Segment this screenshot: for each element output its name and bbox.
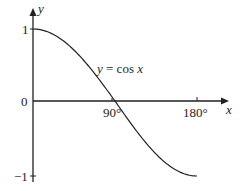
y-axis-label: y xyxy=(36,1,44,16)
y-tick-label-1: 1 xyxy=(22,22,29,37)
cosine-chart: y x 1 0 −1 90° 180° y = cos x xyxy=(0,0,242,191)
x-axis-label: x xyxy=(225,102,232,117)
y-tick-label-0: 0 xyxy=(21,94,28,109)
curve-label-var: x xyxy=(136,61,143,76)
curve-label: y = cos x xyxy=(95,61,143,76)
curve-label-eq: = cos xyxy=(103,61,137,76)
y-axis-arrow-icon xyxy=(30,8,37,16)
y-tick-label-minus-1: −1 xyxy=(14,169,28,184)
cosine-curve xyxy=(33,29,197,176)
x-tick-label-180: 180° xyxy=(183,105,208,120)
x-tick-label-90: 90° xyxy=(103,105,121,120)
